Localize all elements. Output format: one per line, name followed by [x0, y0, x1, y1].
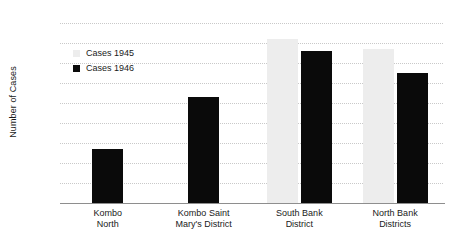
legend-label-1946: Cases 1946	[86, 63, 134, 73]
legend-item-cases-1945: Cases 1945	[73, 48, 134, 58]
x-axis-category-label: Kombo SaintMary's District	[156, 208, 252, 230]
bar-cases-1946	[301, 51, 332, 203]
x-axis-category-line: District	[252, 219, 348, 230]
x-axis-category-line: Mary's District	[156, 219, 252, 230]
bar-group	[347, 23, 443, 203]
bar-group	[252, 23, 348, 203]
bar-cases-1946	[92, 149, 123, 203]
x-axis-category-line: South Bank	[252, 208, 348, 219]
x-axis-baseline	[60, 203, 445, 204]
bar-cases-1945	[363, 49, 394, 203]
x-axis-category-line: North	[60, 219, 156, 230]
y-axis-title-label: Number of Cases	[8, 66, 18, 138]
bar-cases-1946	[397, 73, 428, 203]
bar-chart: Number of Cases 050100150200250300350400…	[0, 0, 458, 244]
x-axis-category-line: Kombo	[60, 208, 156, 219]
x-axis-category-line: North Bank	[347, 208, 443, 219]
bar-cases-1945	[267, 39, 298, 203]
legend-item-cases-1946: Cases 1946	[73, 63, 134, 73]
x-axis-category-label: South BankDistrict	[252, 208, 348, 230]
legend-swatch-icon-1946	[73, 65, 80, 72]
bar-group	[156, 23, 252, 203]
chart-legend: Cases 1945 Cases 1946	[73, 48, 134, 73]
x-axis-category-label: North BankDistricts	[347, 208, 443, 230]
legend-swatch-icon-1945	[73, 50, 80, 57]
bar-cases-1946	[188, 97, 219, 203]
y-axis-title: Number of Cases	[4, 0, 22, 204]
x-axis-category-line: Districts	[347, 219, 443, 230]
x-axis-category-label: KomboNorth	[60, 208, 156, 230]
legend-label-1945: Cases 1945	[86, 48, 134, 58]
x-axis-category-line: Kombo Saint	[156, 208, 252, 219]
